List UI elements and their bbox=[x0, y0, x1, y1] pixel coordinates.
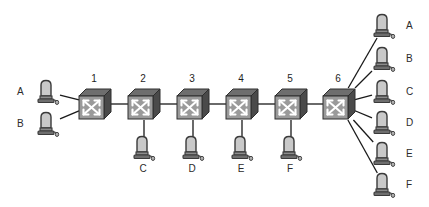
switch-icon-5 bbox=[274, 87, 308, 121]
host-right-label-c: C bbox=[406, 87, 413, 97]
host-right-icon-b bbox=[371, 46, 397, 72]
host-bottom-label-f: F bbox=[287, 164, 293, 174]
link-hl-b-to-sw1 bbox=[60, 111, 79, 119]
host-bottom-label-c: C bbox=[139, 164, 146, 174]
host-bottom-icon-f bbox=[278, 135, 304, 161]
host-bottom-icon-d bbox=[180, 135, 206, 161]
link-hl-a-to-sw1 bbox=[60, 95, 79, 100]
host-left-label-b: B bbox=[17, 119, 24, 129]
host-right-label-d: D bbox=[406, 118, 413, 128]
host-right-icon-f bbox=[371, 172, 397, 198]
switch-label-6: 6 bbox=[335, 74, 341, 84]
host-bottom-icon-e bbox=[229, 135, 255, 161]
switch-label-1: 1 bbox=[91, 74, 97, 84]
switch-icon-2 bbox=[127, 87, 161, 121]
switch-icon-6 bbox=[322, 87, 356, 121]
host-bottom-icon-c bbox=[131, 135, 157, 161]
switch-icon-1 bbox=[78, 87, 112, 121]
link-sw6-to-hr-d bbox=[355, 111, 372, 118]
switch-icon-4 bbox=[225, 87, 259, 121]
switch-label-3: 3 bbox=[189, 74, 195, 84]
host-right-icon-d bbox=[371, 110, 397, 136]
link-layer bbox=[0, 0, 429, 207]
switch-label-2: 2 bbox=[140, 74, 146, 84]
host-right-icon-a bbox=[371, 13, 397, 39]
link-sw6-to-hr-b bbox=[355, 71, 372, 88]
host-right-icon-c bbox=[371, 79, 397, 105]
network-topology-diagram: 123456ABCDEFABCDEF bbox=[0, 0, 429, 207]
host-left-icon-a bbox=[35, 79, 61, 105]
link-sw6-to-hr-c bbox=[355, 95, 372, 100]
switch-label-4: 4 bbox=[238, 74, 244, 84]
host-right-label-f: F bbox=[406, 180, 412, 190]
host-right-label-a: A bbox=[406, 21, 413, 31]
host-left-icon-b bbox=[35, 111, 61, 137]
switch-label-5: 5 bbox=[287, 74, 293, 84]
host-right-label-b: B bbox=[406, 54, 413, 64]
host-right-label-e: E bbox=[406, 149, 413, 159]
host-bottom-label-e: E bbox=[238, 164, 245, 174]
switch-icon-3 bbox=[176, 87, 210, 121]
host-bottom-label-d: D bbox=[188, 164, 195, 174]
host-left-label-a: A bbox=[17, 87, 24, 97]
host-right-icon-e bbox=[371, 141, 397, 167]
